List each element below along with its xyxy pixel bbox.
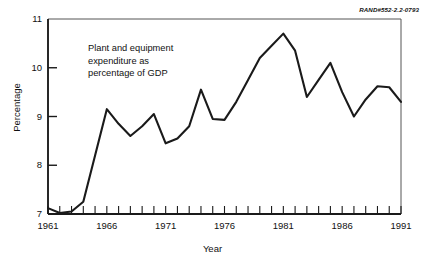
x-axis-tick-label: 1961 (28, 220, 68, 231)
figure-container: RAND#552-2.2-0793 Plant and equipment ex… (0, 0, 425, 267)
x-axis-tick-label: 1976 (205, 220, 245, 231)
x-axis-tick-label: 1991 (381, 220, 421, 231)
y-axis-tick-label: 10 (16, 62, 42, 73)
y-axis-label: Percentage (11, 68, 22, 148)
chart-annotation: Plant and equipment expenditure as perce… (88, 42, 173, 80)
x-axis-tick-label: 1986 (322, 220, 362, 231)
x-axis-tick-label: 1971 (146, 220, 186, 231)
x-axis-label: Year (0, 243, 425, 254)
x-axis-tick-label: 1966 (87, 220, 127, 231)
x-axis-tick-label: 1981 (263, 220, 303, 231)
y-axis-tick-label: 8 (16, 159, 42, 170)
y-axis-tick-label: 11 (16, 13, 42, 24)
y-axis-tick-label: 7 (16, 208, 42, 219)
y-axis-tick-label: 9 (16, 111, 42, 122)
